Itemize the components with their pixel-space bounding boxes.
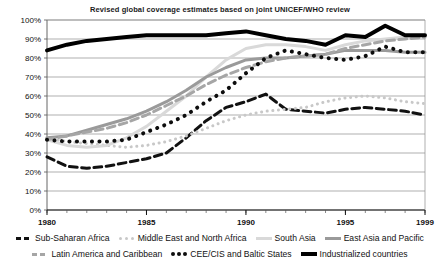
x-axis-tick-label: 1980 bbox=[38, 218, 56, 227]
legend-item-5[interactable]: CEE/CIS and Baltic States bbox=[171, 249, 291, 259]
legend-swatch-icon bbox=[32, 250, 48, 259]
legend-item-3[interactable]: East Asia and Pacific bbox=[325, 233, 424, 243]
series-line-2 bbox=[47, 35, 425, 147]
series-line-6 bbox=[47, 26, 425, 51]
legend-swatch-icon bbox=[119, 234, 135, 243]
y-axis-tick-label: 20% bbox=[25, 168, 41, 177]
chart-container: Revised global coverage estimates based … bbox=[0, 0, 440, 276]
y-axis-tick-label: 50% bbox=[25, 111, 41, 120]
y-axis-tick-label: 80% bbox=[25, 54, 41, 63]
series-line-0 bbox=[47, 94, 425, 168]
x-axis-tick-label: 1985 bbox=[138, 218, 156, 227]
y-axis-tick-label: 0% bbox=[29, 206, 41, 215]
legend-label: Industrialized countries bbox=[320, 249, 408, 259]
legend-item-4[interactable]: Latin America and Caribbean bbox=[32, 249, 162, 259]
legend-row-1: Sub-Saharan AfricaMiddle East and North … bbox=[0, 230, 440, 246]
x-axis-tick-label: 1995 bbox=[337, 218, 355, 227]
y-axis-tick-label: 10% bbox=[25, 187, 41, 196]
y-axis-tick-label: 40% bbox=[25, 130, 41, 139]
legend-swatch-icon bbox=[16, 234, 32, 243]
y-axis-tick-label: 100% bbox=[21, 16, 41, 25]
y-axis-tick-label: 60% bbox=[25, 92, 41, 101]
x-axis-tick-label: 1990 bbox=[237, 218, 255, 227]
legend-label: South Asia bbox=[275, 233, 316, 243]
legend-item-6[interactable]: Industrialized countries bbox=[301, 249, 408, 259]
legend-swatch-icon bbox=[171, 250, 187, 259]
series-line-3 bbox=[47, 50, 425, 137]
y-axis-tick-label: 70% bbox=[25, 73, 41, 82]
legend-label: CEE/CIS and Baltic States bbox=[190, 249, 291, 259]
legend-swatch-icon bbox=[256, 234, 272, 243]
chart-legend: Sub-Saharan AfricaMiddle East and North … bbox=[0, 230, 440, 262]
legend-swatch-icon bbox=[325, 234, 341, 243]
legend-swatch-icon bbox=[301, 250, 317, 259]
legend-label: Latin America and Caribbean bbox=[51, 249, 162, 259]
legend-label: Middle East and North Africa bbox=[138, 233, 247, 243]
legend-item-1[interactable]: Middle East and North Africa bbox=[119, 233, 247, 243]
legend-row-2: Latin America and CaribbeanCEE/CIS and B… bbox=[0, 246, 440, 262]
legend-label: East Asia and Pacific bbox=[344, 233, 424, 243]
legend-item-0[interactable]: Sub-Saharan Africa bbox=[16, 233, 110, 243]
x-axis-tick-label: 1999 bbox=[416, 218, 434, 227]
y-axis-tick-label: 90% bbox=[25, 35, 41, 44]
legend-label: Sub-Saharan Africa bbox=[35, 233, 110, 243]
series-line-5 bbox=[47, 47, 425, 142]
y-axis-tick-label: 30% bbox=[25, 149, 41, 158]
legend-item-2[interactable]: South Asia bbox=[256, 233, 316, 243]
